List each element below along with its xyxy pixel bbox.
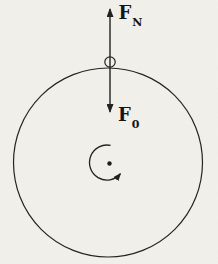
axis-center-dot xyxy=(107,161,111,165)
load-force-subscript: 0 xyxy=(132,118,140,131)
normal-force-subscript: N xyxy=(132,16,142,29)
physics-diagram: FN F0 xyxy=(0,0,218,264)
load-force-label: F0 xyxy=(118,106,138,124)
load-force-symbol: F xyxy=(118,104,131,125)
normal-force-label: FN xyxy=(119,4,142,22)
paper-texture xyxy=(0,0,218,264)
normal-force-symbol: F xyxy=(119,2,132,23)
diagram-canvas xyxy=(0,0,218,264)
